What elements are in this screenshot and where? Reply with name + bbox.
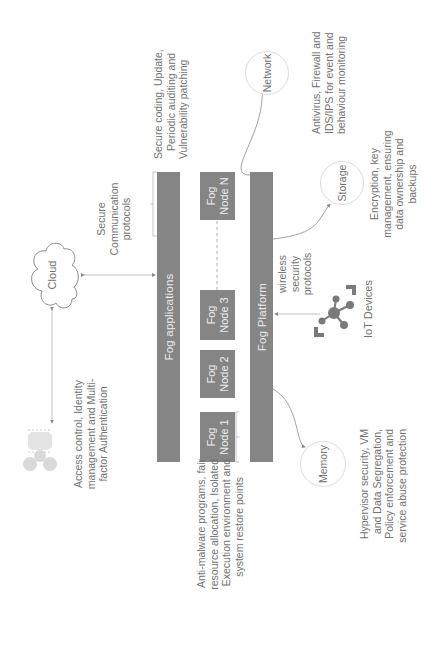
fog-node-label: Node 2 <box>218 356 231 391</box>
cloud-shape: Cloud <box>20 237 86 313</box>
fog-node-label: Fog <box>205 297 218 332</box>
fog-node-label: Fog <box>205 356 218 391</box>
diagram-canvas: Fog applications FogNode 1 FogNode 2 Fog… <box>0 0 435 659</box>
label-line: protocols <box>120 179 133 259</box>
fog-node-2: FogNode 2 <box>200 350 235 398</box>
fog-node-3: FogNode 3 <box>200 290 235 340</box>
cloud-label: Cloud <box>46 237 58 313</box>
fog-node-label: Fog <box>205 177 218 214</box>
fog-node-label: Node 1 <box>218 419 231 454</box>
annotation-line: Hypervisor security, VM <box>358 429 371 579</box>
storage-node: Storage <box>320 161 364 205</box>
annotation-line: Periodic auditing and <box>165 0 178 159</box>
applications-annotation: Secure coding, Update, Periodic auditing… <box>152 0 190 159</box>
annotation-line: service abuse protection <box>396 429 409 579</box>
fog-platform-layer: Fog Platform <box>250 172 273 462</box>
label-line: Communication <box>108 179 121 259</box>
storage-annotation: Encryption, key management, ensuring dat… <box>368 124 418 244</box>
fog-node-label: Node 3 <box>218 297 231 332</box>
network-node: Network <box>245 51 289 95</box>
users-group-icon <box>20 424 60 474</box>
fog-node-label: Node N <box>218 177 231 214</box>
label-line: Secure <box>95 179 108 259</box>
annotation-line: system restore points <box>233 459 246 619</box>
storage-label: Storage <box>336 165 348 202</box>
network-annotation: Antivirus, Firewall and IDS/IPS for even… <box>310 4 348 134</box>
annotation-line: and Data Segregation, <box>371 429 384 579</box>
fog-applications-label: Fog applications <box>163 274 175 361</box>
network-label: Network <box>261 54 273 93</box>
annotation-line: behaviour monitoring <box>335 4 348 134</box>
annotation-line: Policy enforcement and <box>383 429 396 579</box>
iot-devices-icon <box>310 281 360 341</box>
label-line: security <box>289 244 302 304</box>
annotation-line: Execution environment and <box>220 459 233 619</box>
secure-communication-label: Secure Communication protocols <box>95 179 133 259</box>
annotation-line: Vulnerability patching <box>177 0 190 159</box>
annotation-line: Secure coding, Update, <box>152 0 165 159</box>
fog-node-label: Fog <box>205 419 218 454</box>
annotation-line: resource allocation, Isolated <box>208 459 221 619</box>
fog-nodes-annotation: Anti-malware programs, fair resource all… <box>195 459 245 619</box>
label-line: wireless <box>276 244 289 304</box>
memory-label: Memory <box>317 445 329 483</box>
access-control-annotation: Access control, Identity management and … <box>72 359 110 509</box>
annotation-line: Access control, Identity <box>72 359 85 509</box>
annotation-line: factor Authentication <box>97 359 110 509</box>
annotation-line: data ownership and <box>393 124 406 244</box>
wireless-security-label: wireless security protocols <box>276 244 314 304</box>
annotation-line: Encryption, key <box>368 124 381 244</box>
annotation-line: IDS/IPS for event and <box>323 4 336 134</box>
annotation-line: management, ensuring <box>381 124 394 244</box>
annotation-line: Anti-malware programs, fair <box>195 459 208 619</box>
fog-applications-layer: Fog applications <box>157 172 180 462</box>
fog-platform-label: Fog Platform <box>256 283 268 351</box>
annotation-line: management and Multi- <box>85 359 98 509</box>
annotation-line: Antivirus, Firewall and <box>310 4 323 134</box>
annotation-line: backups <box>406 124 419 244</box>
memory-annotation: Hypervisor security, VM and Data Segrega… <box>358 429 408 579</box>
iot-devices-label: IoT Devices <box>362 269 375 349</box>
memory-node: Memory <box>300 441 346 487</box>
fog-node-n: FogNode N <box>200 172 235 220</box>
fog-node-1: FogNode 1 <box>200 412 235 462</box>
